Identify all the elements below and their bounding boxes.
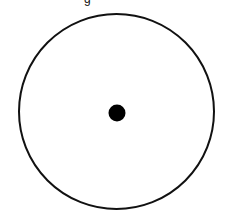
circle-diagram — [0, 0, 226, 219]
diagram-canvas: g — [0, 0, 226, 219]
center-point — [109, 105, 126, 122]
cropped-caption-fragment: g — [84, 0, 91, 5]
